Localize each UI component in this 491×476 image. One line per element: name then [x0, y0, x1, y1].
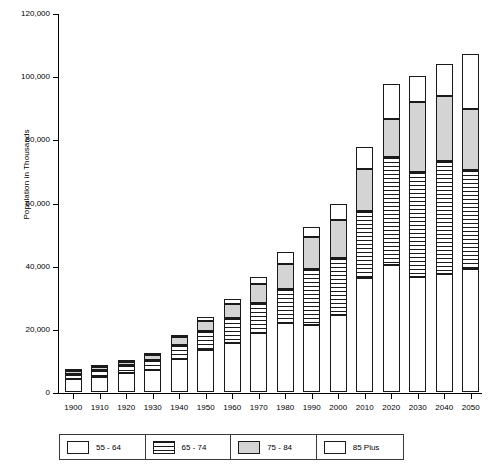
y-tick-label: 40,000 — [0, 262, 50, 271]
bar-segment — [330, 258, 347, 315]
bar-segment — [197, 321, 214, 331]
bar-segment — [91, 365, 108, 367]
y-tick: 120,000 — [53, 14, 58, 15]
x-tick-label: 2050 — [451, 403, 491, 412]
bar-1910[interactable] — [91, 366, 108, 392]
bar-segment — [462, 54, 479, 109]
bar-2030[interactable] — [409, 76, 426, 392]
bar-segment — [250, 277, 267, 284]
x-tick — [153, 394, 154, 399]
bar-segment — [303, 227, 320, 237]
y-tick: 100,000 — [53, 77, 58, 78]
bar-1970[interactable] — [250, 277, 267, 392]
bar-segment — [409, 76, 426, 102]
x-tick — [365, 394, 366, 399]
y-tick-label: 0 — [0, 388, 50, 397]
bar-segment — [224, 343, 241, 392]
bar-segment — [303, 237, 320, 269]
bar-1990[interactable] — [303, 227, 320, 392]
x-tick — [391, 394, 392, 399]
bar-segment — [436, 161, 453, 273]
gray-swatch-icon — [238, 441, 260, 454]
bar-1920[interactable] — [118, 360, 135, 392]
y-tick: 60,000 — [53, 204, 58, 205]
legend-label: 65 - 74 — [182, 443, 207, 452]
legend-item-75-84[interactable]: 75 - 84 — [231, 435, 317, 459]
bar-segment — [356, 278, 373, 392]
bar-segment — [330, 204, 347, 219]
legend-item-55-64[interactable]: 55 - 64 — [60, 435, 146, 459]
x-tick — [73, 394, 74, 399]
bar-segment — [356, 169, 373, 210]
bar-segment — [409, 172, 426, 277]
bar-1960[interactable] — [224, 299, 241, 392]
bar-segment — [91, 377, 108, 392]
y-tick: 80,000 — [53, 140, 58, 141]
bar-segment — [197, 317, 214, 320]
y-axis-title: Population in Thousands — [22, 95, 31, 255]
bar-2050[interactable] — [462, 54, 479, 392]
bar-segment — [383, 157, 400, 265]
bar-2020[interactable] — [383, 84, 400, 392]
x-tick — [418, 394, 419, 399]
bar-segment — [65, 371, 82, 374]
y-tick-label: 80,000 — [0, 135, 50, 144]
bar-segment — [197, 350, 214, 392]
bar-segment — [250, 333, 267, 392]
legend-item-85-plus[interactable]: 85 Plus — [317, 435, 403, 459]
striped-swatch-icon — [153, 441, 175, 454]
y-axis-line — [58, 14, 59, 394]
bar-segment — [383, 265, 400, 392]
bar-segment — [144, 355, 161, 360]
bar-2010[interactable] — [356, 147, 373, 392]
y-tick: 20,000 — [53, 330, 58, 331]
bar-1900[interactable] — [65, 371, 82, 392]
bar-segment — [383, 119, 400, 157]
x-tick — [259, 394, 260, 399]
y-tick: 0 — [53, 393, 58, 394]
bar-1930[interactable] — [144, 354, 161, 392]
x-tick — [206, 394, 207, 399]
bar-segment — [277, 264, 294, 288]
bar-segment — [118, 373, 135, 392]
x-tick — [179, 394, 180, 399]
bar-2040[interactable] — [436, 64, 453, 392]
y-tick-label: 20,000 — [0, 325, 50, 334]
bar-segment — [462, 269, 479, 392]
bar-segment — [65, 374, 82, 379]
bar-segment — [224, 304, 241, 319]
bar-segment — [144, 370, 161, 392]
y-tick: 40,000 — [53, 267, 58, 268]
legend-item-65-74[interactable]: 65 - 74 — [146, 435, 232, 459]
white-swatch-icon — [67, 441, 89, 454]
bar-segment — [118, 362, 135, 366]
chart-legend: 55 - 64 65 - 74 75 - 84 85 Plus — [59, 434, 404, 460]
x-tick — [338, 394, 339, 399]
legend-label: 75 - 84 — [267, 443, 292, 452]
bar-1980[interactable] — [277, 252, 294, 392]
population-stacked-bar-chart: Population in Thousands 020,00040,00060,… — [0, 0, 491, 476]
bar-segment — [224, 318, 241, 343]
bar-segment — [197, 331, 214, 350]
y-tick-label: 60,000 — [0, 199, 50, 208]
x-tick — [126, 394, 127, 399]
bar-segment — [436, 96, 453, 161]
bar-segment — [250, 284, 267, 303]
bar-segment — [436, 274, 453, 392]
legend-label: 85 Plus — [353, 443, 380, 452]
bar-1940[interactable] — [171, 335, 188, 392]
bar-segment — [436, 64, 453, 97]
bar-segment — [409, 277, 426, 392]
bar-1950[interactable] — [197, 317, 214, 392]
bar-segment — [91, 367, 108, 370]
bar-segment — [303, 269, 320, 326]
bar-segment — [65, 369, 82, 371]
bar-segment — [224, 299, 241, 304]
y-tick-label: 120,000 — [0, 9, 50, 18]
bar-segment — [171, 359, 188, 392]
bar-segment — [118, 360, 135, 362]
bar-segment — [250, 303, 267, 333]
bar-2000[interactable] — [330, 204, 347, 392]
bar-segment — [356, 211, 373, 278]
bar-segment — [303, 325, 320, 392]
